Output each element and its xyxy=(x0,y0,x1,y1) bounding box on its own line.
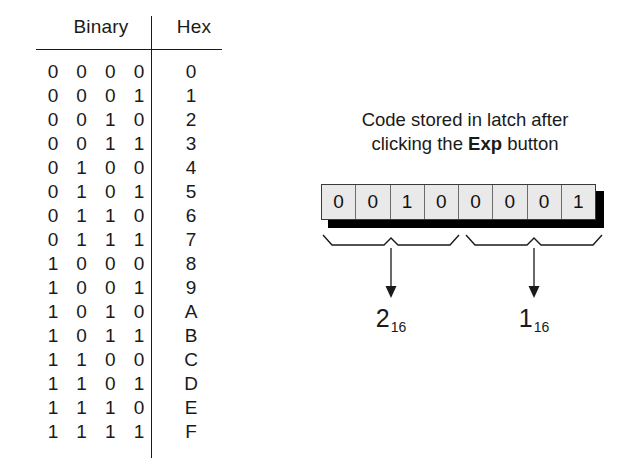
binary-bit: 1 xyxy=(103,300,117,324)
binary-bit: 0 xyxy=(132,300,146,324)
hex-cell: D xyxy=(166,372,216,396)
binary-bit: 1 xyxy=(75,348,89,372)
binary-cell-group: 1011 xyxy=(46,324,146,348)
binary-bit: 1 xyxy=(103,108,117,132)
binary-cell-group: 0011 xyxy=(46,132,146,156)
binary-cell-group: 0010 xyxy=(46,108,146,132)
binary-cell-group: 1000 xyxy=(46,252,146,276)
caption-button-name: Exp xyxy=(468,133,502,154)
hex-cell: 1 xyxy=(166,84,216,108)
nibble-high-digit: 2 xyxy=(376,304,390,332)
latch-caption: Code stored in latch after clicking the … xyxy=(300,108,630,156)
table-row: 1010A xyxy=(20,300,230,324)
binary-bit: 0 xyxy=(132,204,146,228)
binary-bit: 1 xyxy=(103,228,117,252)
binary-bit: 1 xyxy=(103,204,117,228)
table-row: 10008 xyxy=(20,252,230,276)
binary-bit: 0 xyxy=(46,204,60,228)
arrow-low-nibble xyxy=(527,248,541,300)
binary-bit: 1 xyxy=(46,324,60,348)
binary-cell-group: 0111 xyxy=(46,228,146,252)
binary-bit: 1 xyxy=(132,180,146,204)
binary-bit: 0 xyxy=(103,60,117,84)
hex-cell: 7 xyxy=(166,228,216,252)
binary-cell-group: 1110 xyxy=(46,396,146,420)
binary-bit: 0 xyxy=(132,396,146,420)
latch-bit-cell: 0 xyxy=(425,185,459,219)
binary-cell-group: 1101 xyxy=(46,372,146,396)
binary-bit: 1 xyxy=(46,372,60,396)
latch-bit-cell: 0 xyxy=(493,185,527,219)
binary-bit: 0 xyxy=(75,300,89,324)
latch-diagram: Code stored in latch after clicking the … xyxy=(300,108,630,358)
binary-bit: 1 xyxy=(75,180,89,204)
binary-bit: 0 xyxy=(46,132,60,156)
hex-cell: 9 xyxy=(166,276,216,300)
table-row: 00000 xyxy=(20,60,230,84)
binary-bit: 0 xyxy=(46,60,60,84)
latch-bit-cell: 0 xyxy=(356,185,390,219)
arrow-high-nibble xyxy=(384,248,398,300)
nibble-high-base: 16 xyxy=(391,319,407,335)
binary-bit: 1 xyxy=(46,300,60,324)
nibble-low-base: 16 xyxy=(534,319,550,335)
latch-cell-row: 00100001 xyxy=(321,184,596,220)
caption-line-2-suffix: button xyxy=(502,133,559,154)
binary-bit: 1 xyxy=(46,348,60,372)
binary-bit: 0 xyxy=(75,276,89,300)
binary-bit: 0 xyxy=(103,156,117,180)
latch-bit-cell: 1 xyxy=(391,185,425,219)
binary-bit: 1 xyxy=(103,132,117,156)
binary-cell-group: 1001 xyxy=(46,276,146,300)
column-header-hex: Hex xyxy=(166,16,222,38)
binary-bit: 1 xyxy=(132,372,146,396)
binary-bit: 1 xyxy=(46,252,60,276)
latch-register: 00100001 xyxy=(321,184,604,228)
table-row: 1101D xyxy=(20,372,230,396)
binary-bit: 0 xyxy=(75,324,89,348)
binary-cell-group: 1111 xyxy=(46,420,146,444)
binary-bit: 0 xyxy=(103,180,117,204)
table-row: 00011 xyxy=(20,84,230,108)
binary-bit: 0 xyxy=(46,84,60,108)
binary-bit: 0 xyxy=(103,276,117,300)
binary-bit: 1 xyxy=(75,228,89,252)
column-header-binary: Binary xyxy=(46,16,156,38)
binary-bit: 0 xyxy=(75,252,89,276)
table-row: 01004 xyxy=(20,156,230,180)
binary-bit: 1 xyxy=(46,276,60,300)
hex-cell: 8 xyxy=(166,252,216,276)
table-row: 1111F xyxy=(20,420,230,444)
binary-bit: 1 xyxy=(103,420,117,444)
binary-bit: 1 xyxy=(103,396,117,420)
table-body: 0000000011001020011301004010150110601117… xyxy=(20,60,230,444)
hex-cell: 0 xyxy=(166,60,216,84)
table-row: 01117 xyxy=(20,228,230,252)
binary-bit: 0 xyxy=(46,156,60,180)
hex-cell: E xyxy=(166,396,216,420)
binary-bit: 0 xyxy=(75,108,89,132)
binary-bit: 1 xyxy=(132,276,146,300)
binary-bit: 0 xyxy=(103,348,117,372)
brace-low-nibble xyxy=(464,234,604,248)
binary-cell-group: 0101 xyxy=(46,180,146,204)
binary-bit: 0 xyxy=(132,108,146,132)
caption-line-1: Code stored in latch after xyxy=(362,109,569,130)
table-row: 1100C xyxy=(20,348,230,372)
binary-bit: 1 xyxy=(132,132,146,156)
table-row: 00113 xyxy=(20,132,230,156)
brace-high-nibble xyxy=(321,234,461,248)
binary-cell-group: 0000 xyxy=(46,60,146,84)
binary-bit: 0 xyxy=(75,132,89,156)
latch-bit-cell: 1 xyxy=(562,185,595,219)
binary-bit: 1 xyxy=(132,324,146,348)
nibble-value-high: 216 xyxy=(331,304,451,333)
binary-cell-group: 1010 xyxy=(46,300,146,324)
binary-bit: 1 xyxy=(132,84,146,108)
table-row: 10019 xyxy=(20,276,230,300)
binary-bit: 1 xyxy=(75,156,89,180)
hex-cell: 3 xyxy=(166,132,216,156)
binary-bit: 0 xyxy=(103,84,117,108)
binary-bit: 1 xyxy=(75,420,89,444)
binary-hex-table: Binary Hex 00000000110010200113010040101… xyxy=(20,8,230,458)
